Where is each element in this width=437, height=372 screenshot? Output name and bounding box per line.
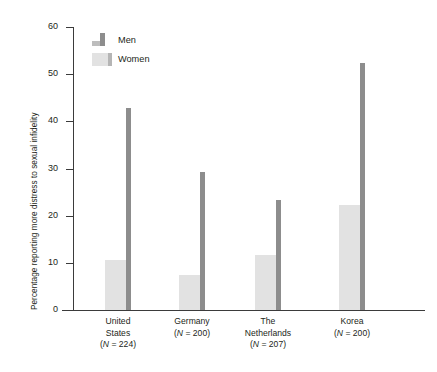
x-label-line: Korea <box>297 316 407 328</box>
x-label-sample-size: (N = 207) <box>213 339 323 351</box>
bar-men-the-netherlands <box>276 200 281 310</box>
sample-size-symbol: N <box>103 339 109 349</box>
x-label-korea: Korea(N = 200) <box>297 316 407 339</box>
bar-women-germany <box>179 275 201 310</box>
sample-size-symbol: N <box>177 328 183 338</box>
x-label-sample-size: (N = 224) <box>63 339 173 351</box>
chart-figure: Percentage reporting more distress to se… <box>0 0 437 372</box>
legend-label-men: Men <box>118 35 136 46</box>
legend-label-women: Women <box>118 54 150 65</box>
women-swatch-icon <box>92 53 108 66</box>
bar-men-germany <box>200 172 205 310</box>
bar-men-united-states <box>126 108 131 310</box>
bar-women-the-netherlands <box>255 255 277 310</box>
bar-women-korea <box>339 205 361 310</box>
bar-men-korea <box>360 63 365 310</box>
bar-women-united-states <box>105 260 127 310</box>
sample-size-symbol: N <box>253 339 259 349</box>
x-label-sample-size: (N = 200) <box>297 328 407 340</box>
men-swatch-bar-icon <box>100 33 105 46</box>
women-swatch-edge-icon <box>108 53 112 66</box>
sample-size-symbol: N <box>337 328 343 338</box>
